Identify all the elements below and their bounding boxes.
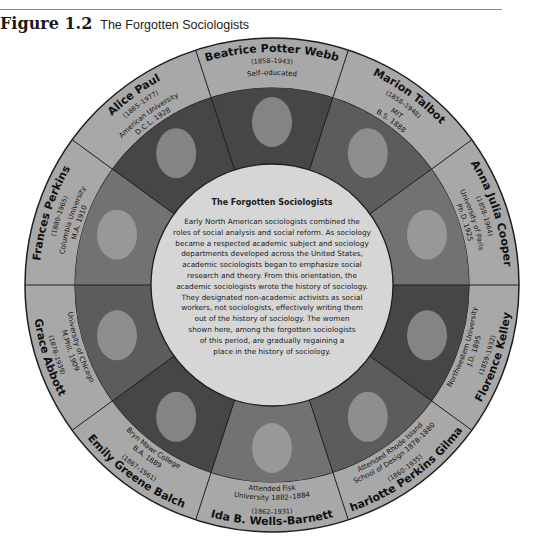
center-line: academic sociologists wrote the history …: [166, 282, 378, 293]
portrait-face: [97, 310, 137, 360]
portrait-face: [97, 210, 137, 260]
center-line: academic sociologists began to emphasize…: [166, 260, 378, 271]
portrait-face: [348, 128, 388, 178]
center-line: shown here, among the forgotten sociolog…: [166, 325, 378, 336]
portrait-face: [252, 97, 292, 147]
sociologist-years: (1858–1943): [251, 57, 293, 66]
portrait-face: [407, 310, 447, 360]
portrait-face: [156, 128, 196, 178]
center-title: The Forgotten Sociologists: [166, 198, 378, 207]
center-line: roles of social analysis and social refo…: [166, 228, 378, 239]
portrait-face: [348, 392, 388, 442]
center-line: out of the history of sociology. The wom…: [166, 314, 378, 325]
center-line: workers, not sociologists, effectively w…: [166, 303, 378, 314]
center-text-block: The Forgotten Sociologists Early North A…: [166, 198, 378, 357]
portrait-face: [156, 392, 196, 442]
portrait-face: [252, 423, 292, 473]
center-line: They designated non-academic activists a…: [166, 293, 378, 304]
center-line: of this period, are gradually regaining …: [166, 336, 378, 347]
center-line: became a respected academic subject and …: [166, 239, 378, 250]
center-body: Early North American sociologists combin…: [166, 217, 378, 357]
center-line: research and theory. From this orientati…: [166, 271, 378, 282]
center-line: departments developed across the United …: [166, 249, 378, 260]
portrait-face: [407, 210, 447, 260]
center-line: Early North American sociologists combin…: [166, 217, 378, 228]
center-line: place in the history of sociology.: [166, 347, 378, 358]
